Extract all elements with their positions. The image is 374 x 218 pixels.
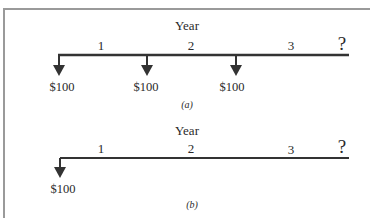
period-label-3: 3: [288, 38, 295, 53]
diagram-b: Year 1 2 3 ? $100 (b): [51, 123, 350, 211]
diagram-a: Year 1 2 3 ? $100 $100 $100 (a): [50, 18, 350, 111]
cash-flow-amount: $100: [220, 80, 245, 94]
period-label-3: 3: [288, 142, 295, 157]
cash-flow-amount: $100: [134, 80, 159, 94]
period-label-2: 2: [188, 141, 195, 156]
cash-flow-arrow: [54, 158, 66, 178]
down-arrow-icon: [54, 167, 66, 178]
cash-flow-amount: $100: [51, 182, 76, 196]
unknown-value-label: ?: [338, 33, 346, 54]
cash-flow-diagrams: Year 1 2 3 ? $100 $100 $100 (a) Year 1 2…: [0, 0, 374, 218]
period-label-1: 1: [98, 38, 105, 53]
period-label-1: 1: [98, 141, 105, 156]
cash-flow-amount: $100: [50, 80, 75, 94]
down-arrow-icon: [53, 65, 65, 76]
down-arrow-icon: [230, 65, 242, 76]
down-arrow-icon: [141, 65, 153, 76]
diagram-caption: (b): [186, 199, 198, 211]
cash-flow-arrow: [141, 55, 153, 76]
unknown-value-label: ?: [338, 136, 346, 157]
cash-flow-arrow: [53, 55, 65, 76]
diagram-caption: (a): [181, 99, 193, 111]
period-label-2: 2: [188, 38, 195, 53]
axis-title: Year: [175, 123, 200, 138]
axis-title: Year: [175, 18, 200, 33]
cash-flow-arrow: [230, 55, 242, 76]
